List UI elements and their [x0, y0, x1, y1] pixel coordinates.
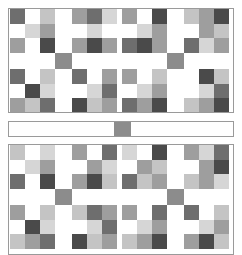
patch-3 — [10, 84, 25, 99]
quadrant-top-left-block-tr — [72, 9, 117, 53]
patch-7 — [137, 98, 152, 113]
patch-5 — [102, 84, 117, 99]
patch-3 — [72, 220, 87, 235]
quadrant-top-left-block-tl — [10, 9, 55, 53]
patch-7 — [25, 98, 40, 113]
quadrant-top-right-sashing-square — [167, 53, 184, 69]
quadrant-top-left-block-bl — [10, 69, 55, 113]
patch-1 — [25, 9, 40, 24]
quadrant-top-left-sashing-square — [55, 189, 72, 205]
patch-8 — [152, 98, 167, 113]
patch-8 — [214, 98, 229, 113]
patch-2 — [40, 9, 55, 24]
patch-5 — [40, 160, 55, 175]
quadrant-top-left — [10, 9, 117, 113]
patch-6 — [10, 174, 25, 189]
patch-8 — [102, 38, 117, 53]
patch-6 — [10, 98, 25, 113]
patch-1 — [137, 69, 152, 84]
patch-0 — [10, 205, 25, 220]
patch-4 — [199, 84, 214, 99]
patch-4 — [25, 220, 40, 235]
patch-2 — [214, 205, 229, 220]
patch-6 — [122, 98, 137, 113]
patch-3 — [10, 220, 25, 235]
patch-1 — [25, 69, 40, 84]
patch-6 — [10, 234, 25, 249]
patch-4 — [87, 84, 102, 99]
patch-5 — [214, 24, 229, 39]
patch-3 — [72, 160, 87, 175]
patch-0 — [10, 69, 25, 84]
patch-7 — [25, 174, 40, 189]
patch-2 — [102, 205, 117, 220]
quadrant-top-left-block-tl — [10, 145, 55, 189]
patch-1 — [199, 69, 214, 84]
patch-4 — [87, 160, 102, 175]
patch-2 — [40, 69, 55, 84]
patch-6 — [184, 98, 199, 113]
patch-0 — [184, 9, 199, 24]
patch-6 — [72, 234, 87, 249]
patch-1 — [87, 9, 102, 24]
patch-6 — [122, 234, 137, 249]
patch-5 — [40, 84, 55, 99]
bottom-panel — [8, 144, 234, 255]
patch-3 — [184, 220, 199, 235]
patch-2 — [102, 9, 117, 24]
patch-8 — [40, 38, 55, 53]
patch-4 — [137, 220, 152, 235]
patch-3 — [122, 24, 137, 39]
patch-2 — [214, 9, 229, 24]
patch-0 — [122, 69, 137, 84]
patch-4 — [137, 24, 152, 39]
patch-5 — [152, 220, 167, 235]
quadrant-top-left-block-br — [72, 69, 117, 113]
patch-6 — [122, 38, 137, 53]
patch-7 — [199, 234, 214, 249]
quadrant-top-left-block-bl — [10, 205, 55, 249]
patch-3 — [122, 84, 137, 99]
patch-6 — [184, 234, 199, 249]
patch-2 — [214, 145, 229, 160]
patch-1 — [25, 145, 40, 160]
patch-8 — [214, 174, 229, 189]
patch-3 — [122, 160, 137, 175]
quadrant-top-right-sashing-square — [167, 189, 184, 205]
patch-7 — [137, 234, 152, 249]
patch-5 — [214, 160, 229, 175]
patch-5 — [152, 84, 167, 99]
patch-6 — [72, 98, 87, 113]
patch-1 — [199, 9, 214, 24]
patch-0 — [10, 145, 25, 160]
patch-5 — [152, 160, 167, 175]
patch-1 — [199, 145, 214, 160]
patch-8 — [40, 98, 55, 113]
patch-6 — [72, 38, 87, 53]
quadrant-top-right-block-bl — [122, 69, 167, 113]
patch-5 — [102, 160, 117, 175]
patch-4 — [87, 24, 102, 39]
patch-1 — [25, 205, 40, 220]
patch-5 — [102, 220, 117, 235]
patch-4 — [199, 220, 214, 235]
patch-1 — [87, 69, 102, 84]
patch-5 — [214, 220, 229, 235]
quadrant-top-left-block-br — [72, 205, 117, 249]
patch-7 — [25, 38, 40, 53]
patch-8 — [214, 38, 229, 53]
patch-0 — [184, 145, 199, 160]
patch-6 — [72, 174, 87, 189]
top-panel — [8, 8, 234, 113]
sashing-center-square — [114, 122, 131, 136]
patch-8 — [214, 234, 229, 249]
patch-3 — [184, 24, 199, 39]
patch-6 — [10, 38, 25, 53]
patch-7 — [87, 174, 102, 189]
patch-2 — [40, 145, 55, 160]
patch-8 — [40, 234, 55, 249]
patch-4 — [199, 24, 214, 39]
patch-4 — [25, 24, 40, 39]
patch-0 — [72, 205, 87, 220]
patch-3 — [10, 160, 25, 175]
